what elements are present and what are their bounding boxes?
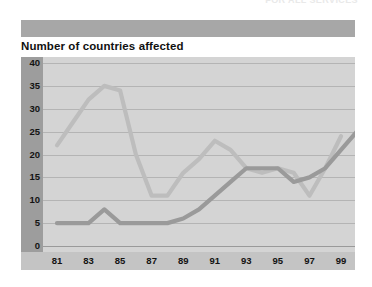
x-axis-tick-label: 91 (209, 256, 220, 266)
x-axis-tick-label: 97 (304, 256, 315, 266)
x-axis-tick-label: 83 (83, 256, 94, 266)
x-axis-tick-label: 89 (178, 256, 189, 266)
y-axis-tick-label: 0 (35, 241, 40, 251)
page-title: Number of countries affected (21, 40, 184, 52)
series-lines (43, 57, 355, 252)
x-axis-tick-label: 95 (273, 256, 284, 266)
y-axis-tick-label: 5 (35, 218, 40, 228)
top-cutoff-text: FOR ALL SERVICES (265, 0, 358, 5)
x-axis-tick-label: 93 (241, 256, 252, 266)
y-axis-tick-label: 30 (29, 104, 40, 114)
y-axis-tick-label: 40 (29, 58, 40, 68)
top-cutoff-strip: FOR ALL SERVICES (0, 0, 372, 10)
page-root: FOR ALL SERVICES Number of countries aff… (0, 0, 372, 287)
y-axis-tick-label: 20 (29, 150, 40, 160)
y-axis-tick-label: 10 (29, 196, 40, 206)
x-axis-tick-label: 87 (146, 256, 157, 266)
x-axis-tick-label: 85 (115, 256, 126, 266)
header-bar (21, 20, 355, 37)
series-dark-line (57, 132, 355, 224)
x-axis-strip: 81838587899193959799 (21, 252, 355, 270)
y-axis-labels: 0510152025303540 (21, 57, 43, 252)
x-axis-tick-label: 81 (52, 256, 63, 266)
plot-area (43, 57, 355, 252)
chart-figure: 0510152025303540 81838587899193959799 (21, 57, 355, 270)
y-axis-tick-label: 35 (29, 81, 40, 91)
y-axis-tick-label: 25 (29, 127, 40, 137)
x-axis-tick-label: 99 (336, 256, 347, 266)
y-axis-tick-label: 15 (29, 173, 40, 183)
